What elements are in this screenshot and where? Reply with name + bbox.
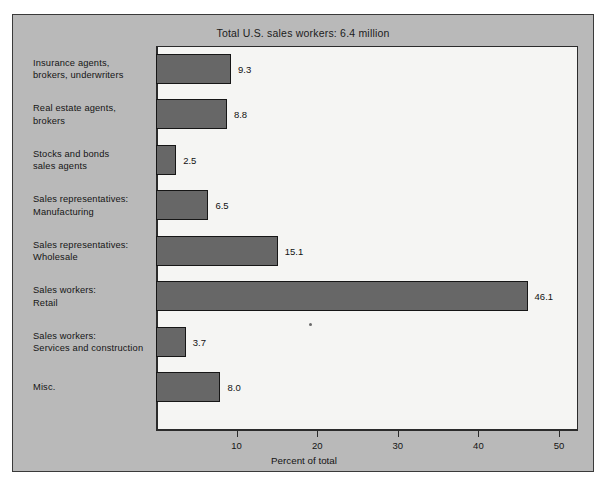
x-axis-tick xyxy=(478,431,479,437)
bar xyxy=(156,145,176,175)
x-axis-tick-label: 50 xyxy=(554,440,565,451)
bar-track: 3.7 xyxy=(156,327,578,357)
x-axis-tick-label: 30 xyxy=(393,440,404,451)
x-axis-tick-label: 20 xyxy=(312,440,323,451)
bar-row: Insurance agents,brokers, underwriters9.… xyxy=(13,46,593,91)
bar-value-label: 2.5 xyxy=(176,154,196,165)
bar xyxy=(156,236,278,266)
bar-row: Sales workers:Services and construction3… xyxy=(13,319,593,364)
bar-row: Misc.8.0 xyxy=(13,365,593,410)
bar-track: 2.5 xyxy=(156,145,578,175)
x-axis-tick-label: 40 xyxy=(473,440,484,451)
bar-value-label: 8.0 xyxy=(220,382,240,393)
chart-panel: Total U.S. sales workers: 6.4 million In… xyxy=(12,14,594,472)
bar xyxy=(156,99,227,129)
x-axis-tick xyxy=(317,431,318,437)
bar-value-label: 3.7 xyxy=(186,336,206,347)
bar-row: Stocks and bondssales agents2.5 xyxy=(13,137,593,182)
bar-track: 8.0 xyxy=(156,372,578,402)
bar-row: Sales workers:Retail46.1 xyxy=(13,274,593,319)
x-axis-tick xyxy=(559,431,560,437)
bar-track: 15.1 xyxy=(156,236,578,266)
bar xyxy=(156,190,208,220)
x-axis-tick xyxy=(237,431,238,437)
scan-speck xyxy=(309,323,312,326)
bar-value-label: 15.1 xyxy=(278,245,304,256)
x-axis-tick xyxy=(398,431,399,437)
bar-row: Sales representatives:Wholesale15.1 xyxy=(13,228,593,273)
bar-value-label: 9.3 xyxy=(231,63,251,74)
bar-track: 46.1 xyxy=(156,281,578,311)
bar-row: Sales representatives:Manufacturing6.5 xyxy=(13,183,593,228)
bar-track: 9.3 xyxy=(156,54,578,84)
chart-title: Total U.S. sales workers: 6.4 million xyxy=(13,27,593,39)
bar xyxy=(156,372,220,402)
x-axis-tick-label: 10 xyxy=(231,440,242,451)
bar xyxy=(156,281,528,311)
bar-track: 8.8 xyxy=(156,99,578,129)
bar xyxy=(156,327,186,357)
bar-value-label: 8.8 xyxy=(227,109,247,120)
x-axis-title: Percent of total xyxy=(13,455,595,466)
bar-value-label: 46.1 xyxy=(528,291,554,302)
bar xyxy=(156,54,231,84)
bar-track: 6.5 xyxy=(156,190,578,220)
bar-row: Real estate agents,brokers8.8 xyxy=(13,92,593,137)
bar-value-label: 6.5 xyxy=(208,200,228,211)
